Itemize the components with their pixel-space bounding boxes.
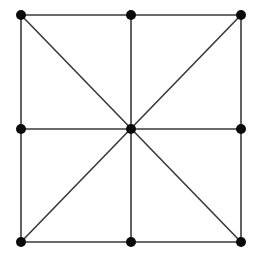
graph-node-bottom-left — [16, 237, 26, 247]
graph-svg — [0, 0, 258, 256]
graph-node-bottom-right — [236, 237, 246, 247]
graph-node-center — [126, 124, 136, 134]
diagram-canvas — [0, 0, 258, 256]
graph-node-top-middle — [126, 10, 136, 20]
graph-node-top-left — [16, 10, 26, 20]
graph-node-top-right — [236, 10, 246, 20]
graph-node-middle-right — [236, 124, 246, 134]
graph-node-middle-left — [16, 124, 26, 134]
graph-node-bottom-middle — [126, 237, 136, 247]
